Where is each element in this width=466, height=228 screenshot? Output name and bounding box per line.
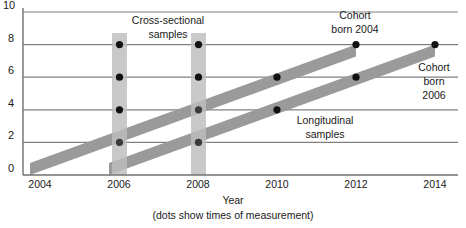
annotation-cohort-born-2004: Cohort born 2004 — [331, 9, 378, 35]
dot-2006-2 — [116, 139, 123, 146]
x-tick-labels: 2004 2006 2008 2010 2012 2014 — [28, 178, 447, 190]
dot-2006-6 — [116, 74, 123, 81]
dot-2006-8 — [116, 41, 123, 48]
dot-2006-4 — [116, 106, 123, 113]
annotation-cohort-born-2006: Cohort born 2006 — [418, 61, 450, 101]
annotation-cohort-2006-line3: 2006 — [422, 89, 446, 101]
y-tick-labels: 10 8 6 4 2 0 — [3, 0, 15, 174]
x-tick-2004: 2004 — [28, 178, 52, 190]
annotation-cohort-2004-line2: born 2004 — [331, 23, 378, 35]
dot-cohort2006-2012-6 — [352, 74, 359, 81]
y-tick-0: 0 — [8, 162, 14, 174]
y-tick-2: 2 — [8, 129, 14, 141]
annotation-cohort-2004-line1: Cohort — [339, 9, 371, 21]
annotation-cross-sectional-line1: Cross-sectional — [132, 14, 204, 26]
dot-2008-6 — [195, 74, 202, 81]
dot-2008-8 — [195, 41, 202, 48]
dot-2008-4 — [195, 106, 202, 113]
x-tick-2010: 2010 — [265, 178, 289, 190]
x-tick-2014: 2014 — [423, 178, 447, 190]
dot-2008-2 — [195, 139, 202, 146]
y-tick-8: 8 — [8, 32, 14, 44]
x-tick-2008: 2008 — [186, 178, 210, 190]
measurement-dots — [116, 41, 439, 146]
annotation-cohort-2006-line1: Cohort — [418, 61, 450, 73]
vbar-2008 — [191, 33, 206, 175]
x-tick-2006: 2006 — [107, 178, 131, 190]
annotation-longitudinal-line1: Longitudinal — [297, 114, 354, 126]
vbar-2006 — [112, 33, 127, 175]
annotation-cross-sectional-line2: samples — [148, 28, 187, 40]
x-axis-subtitle: (dots show times of measurement) — [152, 209, 313, 221]
dot-cohort2006-2010-4 — [273, 106, 280, 113]
annotation-longitudinal: Longitudinal samples — [297, 114, 354, 140]
x-tick-2012: 2012 — [344, 178, 368, 190]
y-tick-4: 4 — [8, 97, 14, 109]
dot-cohort2004-2012-8 — [352, 41, 359, 48]
y-tick-6: 6 — [8, 64, 14, 76]
cohort-sequential-design-chart: 10 8 6 4 2 0 2004 2006 2008 2010 2012 20… — [0, 0, 466, 228]
dot-cohort2004-2010-6 — [273, 74, 280, 81]
dot-cohort2006-2014-8 — [431, 41, 438, 48]
y-tick-10: 10 — [3, 0, 15, 11]
annotation-longitudinal-line2: samples — [305, 128, 344, 140]
x-axis-title: Year — [222, 194, 244, 206]
annotation-cohort-2006-line2: born — [423, 75, 444, 87]
